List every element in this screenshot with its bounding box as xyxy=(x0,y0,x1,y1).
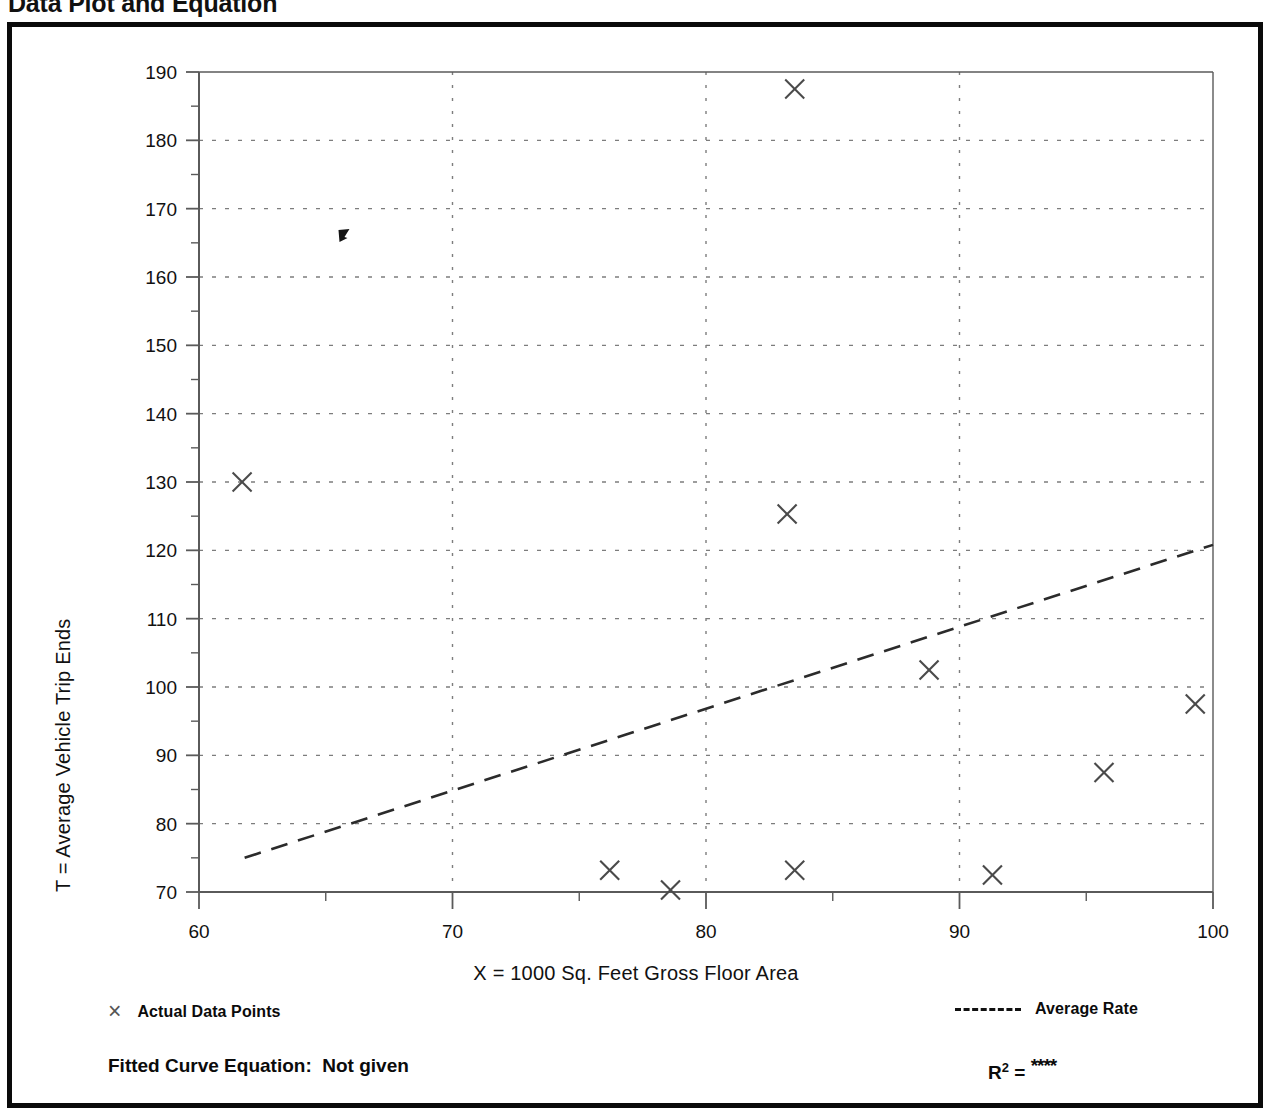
legend-item-average-rate: Average Rate xyxy=(955,1000,1138,1018)
legend: × Actual Data Points Average Rate xyxy=(0,1000,1272,1038)
r-value: **** xyxy=(1031,1055,1057,1076)
x-axis-title: X = 1000 Sq. Feet Gross Floor Area xyxy=(0,962,1272,985)
legend-label-actual-data-points: Actual Data Points xyxy=(137,1003,280,1021)
r-symbol: R xyxy=(988,1062,1002,1083)
r-squared-value: R2 = **** xyxy=(988,1055,1056,1084)
y-axis-title: T = Average Vehicle Trip Ends xyxy=(52,618,75,892)
r-exponent: 2 xyxy=(1002,1060,1009,1075)
page-title: Data Plot and Equation xyxy=(8,0,277,18)
figure-frame xyxy=(7,22,1263,1108)
equation-row: Fitted Curve Equation: Not given R2 = **… xyxy=(0,1055,1272,1095)
legend-label-average-rate: Average Rate xyxy=(1035,1000,1138,1018)
dashed-line-icon xyxy=(955,1008,1021,1011)
r-equals: = xyxy=(1009,1062,1031,1083)
legend-item-actual-data-points: × Actual Data Points xyxy=(108,1000,281,1023)
cross-marker-icon: × xyxy=(108,1000,121,1023)
fitted-curve-equation: Fitted Curve Equation: Not given xyxy=(108,1055,409,1077)
